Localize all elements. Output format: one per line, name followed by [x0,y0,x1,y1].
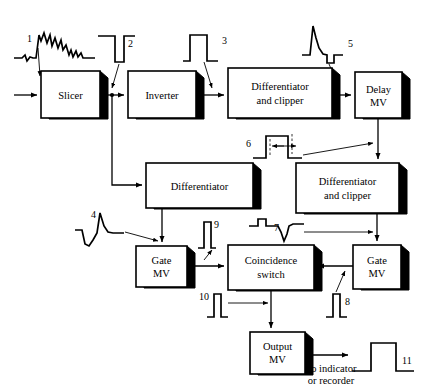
wave-7-number: 7 [274,222,279,233]
wave-2-pointer [112,64,119,88]
waveform-4 [75,213,124,246]
wave-3-pointer [204,62,212,88]
wave-5-number: 5 [348,38,353,49]
output-destination-line2: or recorder [308,375,355,386]
wave-8-pointer [336,271,345,292]
waveform-5 [302,26,343,63]
block-diffclip-top-label-2: and clipper [257,95,304,106]
wave-8-number: 8 [345,296,350,307]
block-coincidence-switch[interactable]: Coincidence switch [228,245,322,291]
block-output-mv-label-2: MV [269,354,286,365]
block-differentiator-clipper-mid[interactable]: Differentiator and clipper [296,163,407,214]
block-coincidence-label-1: Coincidence [245,255,298,266]
wave-6-number: 6 [246,138,251,149]
block-differentiator-label: Differentiator [171,181,229,192]
wire-network [14,93,378,355]
waveform-10 [207,294,228,317]
wave-11-number: 11 [402,355,412,366]
block-gate-mv-left-label-1: Gate [152,255,172,266]
waveform-3 [183,35,218,61]
block-diffclip-mid-label-1: Differentiator [319,176,377,187]
block-differentiator-clipper-top[interactable]: Differentiator and clipper [228,68,340,119]
block-diagram: 1 2 3 5 6 4 9 7 10 [0,0,429,392]
wave-9-number: 9 [214,219,219,230]
diagram-canvas: 1 2 3 5 6 4 9 7 10 [0,0,429,392]
waveform-8 [326,294,347,317]
block-differentiator[interactable]: Differentiator [146,163,261,209]
block-gate-mv-right-label-1: Gate [367,255,387,266]
block-slicer-label: Slicer [58,90,83,101]
wave-1-number: 1 [27,33,32,44]
wave-4-pointer [125,232,158,241]
wave-10-number: 10 [199,291,209,302]
block-gate-mv-left[interactable]: Gate MV [136,246,195,288]
wave-2-number: 2 [128,38,133,49]
block-inverter-label: Inverter [145,90,179,101]
block-inverter[interactable]: Inverter [128,71,204,119]
wave-1-pointer [38,48,40,76]
block-output-mv-label-1: Output [263,341,292,352]
output-destination-line1: To indicator [306,363,357,374]
block-gate-mv-right[interactable]: Gate MV [353,245,409,290]
block-gate-mv-left-label-2: MV [153,268,170,279]
block-gate-mv-right-label-2: MV [369,268,386,279]
block-output-mv[interactable]: Output MV [250,332,313,375]
wave-4-number: 4 [91,209,96,220]
wave-6-pointer [303,143,373,155]
waveform-6 [253,134,302,158]
block-delay-mv-label-1: Delay [366,84,392,95]
block-delay-mv[interactable]: Delay MV [355,72,410,119]
wave-9-pointer [204,250,212,260]
block-coincidence-label-2: switch [257,269,285,280]
wave-3-number: 3 [222,35,227,46]
block-diffclip-top-label-1: Differentiator [251,81,309,92]
block-delay-mv-label-2: MV [370,97,387,108]
block-diffclip-mid-label-2: and clipper [324,190,371,201]
block-slicer[interactable]: Slicer [41,71,108,119]
